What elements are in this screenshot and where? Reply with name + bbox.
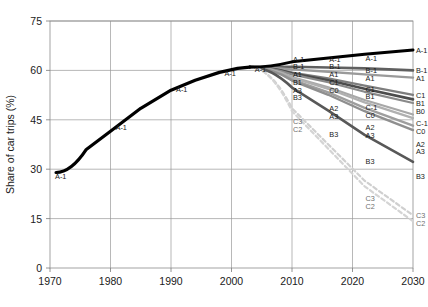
series-label-c0: C0 [416,127,425,136]
series-label-b3: B3 [329,130,338,139]
y-axis-title: Share of car trips (%) [4,95,16,194]
axis-title-layer: Share of car trips (%) [4,95,16,194]
history-point-label: A-1 [176,85,187,94]
x-tick-label: 1980 [99,275,123,287]
series-label-a3: A3 [329,112,338,121]
x-tick-label: 2010 [280,275,304,287]
y-tick-label: 75 [30,15,42,27]
series-label-a-1: A-1 [416,46,427,55]
history-point-label: A-1 [255,65,266,74]
y-tick-label: 15 [30,213,42,225]
x-tick-label: 2000 [220,275,244,287]
series-label-b0: B0 [416,107,425,116]
history-point-label: A-1 [116,123,127,132]
line-chart-svg: A-1A-1A-1A-1A-1 A-1B-1A1B1A3B3C3C2A-1B-1… [0,0,428,307]
series-label-a-1: A-1 [366,54,377,63]
x-tick-label: 2020 [341,275,365,287]
y-tick-label: 0 [36,262,42,274]
series-label-b3: B3 [293,93,302,102]
inline-label-layer: A-1A-1A-1A-1A-1 [55,65,266,182]
series-label-c0: C0 [329,86,338,95]
chart-container: A-1A-1A-1A-1A-1 A-1B-1A1B1A3B3C3C2A-1B-1… [0,0,428,307]
series-label-b1: B1 [366,92,375,101]
x-tick-label: 1970 [38,275,62,287]
x-tick-label: 1990 [159,275,183,287]
series-label-c2: C2 [416,219,425,228]
series-label-c2: C2 [366,202,375,211]
series-label-a3: A3 [416,147,425,156]
y-tick-label: 30 [30,163,42,175]
x-tick-label: 2030 [401,275,425,287]
series-label-c0: C0 [366,111,375,120]
series-label-c2: C2 [293,125,302,134]
series-label-a1: A1 [366,74,375,83]
history-point-label: A-1 [224,69,235,78]
history-point-label: A-1 [55,172,66,181]
series-label-b3: B3 [416,172,425,181]
y-tick-label: 60 [30,64,42,76]
series-label-b3: B3 [366,157,375,166]
series-label-a3: A3 [366,131,375,140]
grid-layer [50,21,413,268]
y-tick-label: 45 [30,114,42,126]
series-label-a1: A1 [416,74,425,83]
